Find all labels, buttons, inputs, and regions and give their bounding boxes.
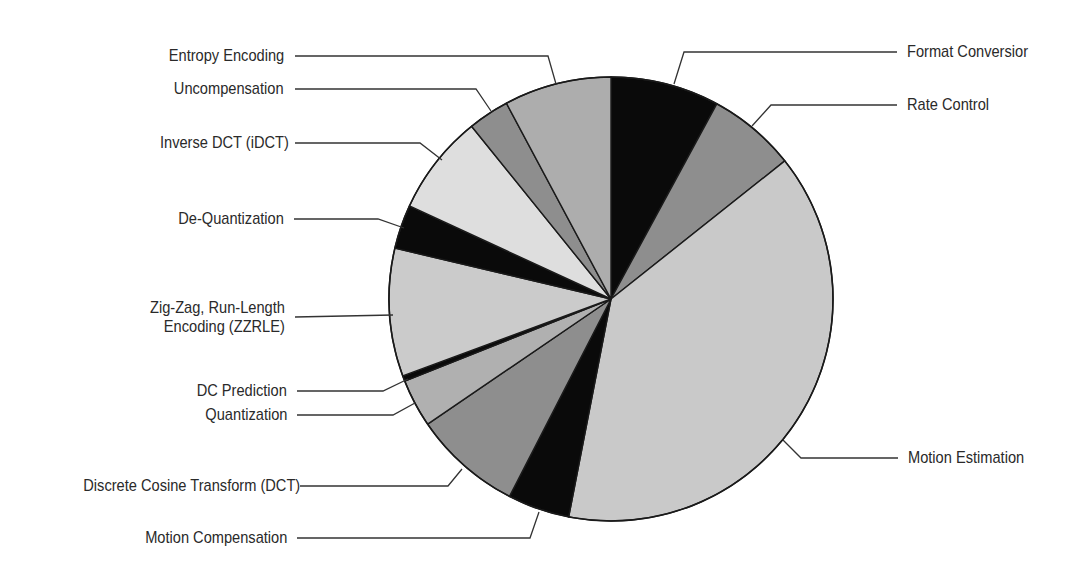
- slice-label-zig-zag-run-length-encoding-zzrle: Zig-Zag, Run-LengthEncoding (ZZRLE): [150, 298, 285, 336]
- slice-label-quantization: Quantization: [205, 405, 287, 424]
- slice-label-line: DC Prediction: [197, 381, 287, 400]
- leader-line-de-quantization: [294, 219, 404, 228]
- slice-label-line: Rate Control: [907, 95, 989, 114]
- leader-line-motion-compensation: [297, 512, 539, 538]
- slice-label-line: Inverse DCT (iDCT): [160, 133, 289, 152]
- slice-label-entropy-encoding: Entropy Encoding: [169, 46, 284, 65]
- slice-label-line: Discrete Cosine Transform (DCT): [83, 476, 300, 495]
- leader-line-uncompensation: [295, 89, 491, 111]
- slice-label-line: Entropy Encoding: [169, 46, 284, 65]
- slice-label-uncompensation: Uncompensation: [174, 79, 284, 98]
- leader-line-inverse-dct-idct: [295, 143, 442, 160]
- leader-line-zig-zag-run-length-encoding-zzrle: [295, 315, 393, 317]
- slice-label-line: De-Quantization: [178, 209, 284, 228]
- slice-label-line: Encoding (ZZRLE): [150, 317, 285, 336]
- pie-chart: [0, 0, 1088, 586]
- leader-line-rate-control: [752, 105, 897, 126]
- pie-slices: [389, 77, 833, 521]
- leader-line-entropy-encoding: [295, 56, 556, 84]
- slice-label-line: Zig-Zag, Run-Length: [150, 298, 285, 317]
- leader-line-quantization: [297, 403, 415, 415]
- slice-label-line: Quantization: [205, 405, 287, 424]
- slice-label-discrete-cosine-transform-dct: Discrete Cosine Transform (DCT): [83, 476, 300, 495]
- slice-label-motion-compensation: Motion Compensation: [145, 528, 287, 547]
- leader-line-discrete-cosine-transform-dct: [300, 469, 462, 486]
- slice-label-rate-control: Rate Control: [907, 95, 989, 114]
- slice-label-de-quantization: De-Quantization: [178, 209, 284, 228]
- leader-line-dc-prediction: [297, 379, 408, 391]
- slice-label-line: Motion Estimation: [908, 448, 1024, 467]
- slice-label-line: Uncompensation: [174, 79, 284, 98]
- slice-label-format-conversion: Format Conversior: [907, 42, 1028, 61]
- slice-label-dc-prediction: DC Prediction: [197, 381, 287, 400]
- slice-label-motion-estimation: Motion Estimation: [908, 448, 1024, 467]
- slice-label-inverse-dct-idct: Inverse DCT (iDCT): [160, 133, 289, 152]
- slice-label-line: Format Conversior: [907, 42, 1028, 61]
- slice-label-line: Motion Compensation: [145, 528, 287, 547]
- leader-line-motion-estimation: [783, 440, 898, 458]
- leader-line-format-conversion: [674, 52, 897, 84]
